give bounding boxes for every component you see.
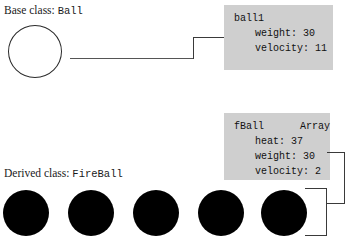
base-class-label: Base class: Ball [4, 4, 83, 18]
ball1-object-box: ball1 weight: 30 velocity: 11 [224, 5, 333, 70]
fireball-circle-4 [198, 190, 244, 236]
derived-class-prefix: Derived class: [4, 167, 69, 179]
ball1-field-velocity: velocity: 11 [234, 41, 325, 56]
base-connector-horizontal-lower [70, 58, 194, 59]
ball1-field-weight: weight: 30 [234, 26, 325, 41]
fball-field-heat: heat: 37 [234, 134, 322, 149]
base-class-name: Ball [58, 5, 83, 17]
ball1-header: ball1 [234, 12, 325, 26]
fball-array-header: fBall Array [234, 120, 322, 134]
ball-row-bracket-bottom-arm [305, 235, 327, 236]
fball-array-box: fBall Array heat: 37 weight: 30 velocity… [224, 113, 330, 180]
fireball-circle-1 [3, 190, 49, 236]
ball-row-bracket-stem [326, 203, 345, 204]
base-class-prefix: Base class: [4, 4, 55, 16]
inheritance-diagram: Base class: Ball ball1 weight: 30 veloci… [0, 0, 348, 245]
fball-field-weight: weight: 30 [234, 149, 322, 164]
array-bracket-right-spine [344, 152, 345, 204]
fireball-circle-3 [133, 190, 179, 236]
array-bracket-top-arm [327, 152, 345, 153]
fireball-circle-5 [261, 190, 307, 236]
base-ball-circle [8, 25, 62, 78]
fireball-circle-2 [68, 190, 114, 236]
ball-row-bracket-spine [326, 188, 327, 236]
derived-class-name: FireBall [72, 168, 122, 180]
ball-row-bracket-top-arm [305, 188, 327, 189]
base-connector-vertical [193, 37, 194, 59]
base-connector-horizontal-upper [193, 37, 225, 38]
fball-field-velocity: velocity: 2 [234, 164, 322, 179]
derived-class-label: Derived class: FireBall [4, 167, 123, 181]
